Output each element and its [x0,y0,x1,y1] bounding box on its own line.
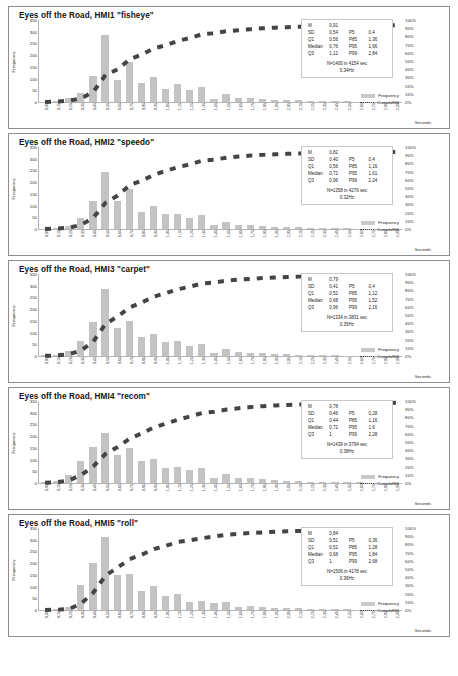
y-axis-tick: 100 [30,203,37,208]
y2-axis-tick: 0% [405,481,411,486]
chart-title: Eyes off the Road, HMI2 "speedo" [19,138,154,147]
x-axis-tick: 0,65 [118,357,122,364]
x-axis-tick: 2,55 [348,484,352,491]
y-axis-tick: 250 [30,295,37,300]
y-axis-tick: 50 [32,215,37,220]
statistics-box: M0,82SD0,40P50,4Q10,56P851,16Median0,72P… [301,146,393,205]
statistics-row: M0,79 [307,277,387,284]
chart-title: Eyes off the Road, HMI3 "carpet" [19,265,150,274]
x-axis-tick: 2,55 [348,357,352,364]
stat-label: Median [307,171,328,178]
stat-label: M [307,23,328,30]
stat-value: 1,16 [367,164,387,171]
x-axis-tick: 0,45 [93,611,97,618]
legend-swatch-line [360,229,374,230]
x-axis-tick: 0,45 [93,357,97,364]
stat-value: 2,28 [367,432,387,439]
legend-label-cumulative: Cumulative [377,354,399,359]
x-axis-tick: 2,45 [335,357,339,364]
y2-axis-tick: 90% [405,280,414,285]
stat-value: 0,78 [328,404,348,411]
x-axis-tick: 2,05 [287,230,291,237]
legend-swatch-line [360,483,374,484]
x-axis-tick: 1,95 [275,484,279,491]
x-axis-tick: 0,15 [57,103,61,110]
statistics-row: Q10,52P851,12 [307,291,387,298]
x-axis-tick: 1,95 [275,103,279,110]
statistics-row: Median0,76P951,96 [307,44,387,51]
stat-label: P99 [348,432,368,439]
stat-label [348,404,368,411]
y-axis-tick: 300 [30,29,37,34]
y2-axis-tick: 80% [405,542,414,547]
y-axis-tick: 50 [32,469,37,474]
stat-label: P95 [348,298,368,305]
x-axis-tick: 2,25 [311,611,315,618]
y-axis-label-wrap: Frequency [14,401,22,484]
statistics-table: M0,79SD0,41P50,4Q10,52P851,12Median0,68P… [307,277,387,312]
x-axis-tick: 0,25 [69,357,73,364]
stat-label: P85 [348,545,368,552]
x-axis-tick: 2,35 [323,357,327,364]
y2-axis-tick: 70% [405,42,414,47]
x-axis-tick: 2,35 [323,230,327,237]
legend-item-frequency: Frequency [360,600,399,607]
x-axis-tick: 1,55 [227,230,231,237]
statistics-row: Q31P992,28 [307,432,387,439]
stat-value: 0,54 [328,30,348,37]
y-axis-tick: 200 [30,561,37,566]
y-axis-tick: 300 [30,410,37,415]
stat-label: Q1 [307,291,328,298]
y-axis-tick: 100 [30,584,37,589]
stat-label: Q1 [307,418,328,425]
stat-label: Q1 [307,545,328,552]
legend-swatch-bar [361,94,375,98]
sample-size-line: N=1400 in 4154 sec [307,61,387,68]
stat-value: 0,36 [367,538,387,545]
y-axis-tick: 350 [30,399,37,404]
legend-item-cumulative: Cumulative [360,99,399,106]
stat-value: 0,4 [367,284,387,291]
stat-label: P99 [348,51,368,58]
stat-label: Q3 [307,178,328,185]
x-axis-tick: 0,95 [154,611,158,618]
statistics-row: Median0,72P951,6 [307,425,387,432]
y2-axis-tick: 30% [405,75,414,80]
y-axis-tick: 50 [32,342,37,347]
y2-axis-tick: 50% [405,186,414,191]
x-axis-tick: 0,75 [130,230,134,237]
chart-panel-1: Eyes off the Road, HMI1 "fisheye"Frequen… [8,6,450,129]
x-axis-tick: 2,05 [287,357,291,364]
y2-axis-tick: 30% [405,583,414,588]
legend-swatch-bar [361,348,375,352]
y2-axis-tick: 40% [405,321,414,326]
stat-value: 0,4 [367,157,387,164]
stat-label: P5 [348,538,368,545]
stat-value: 1,52 [367,298,387,305]
stat-value: 1,96 [367,44,387,51]
y-axis-label-wrap: Frequency [14,528,22,611]
x-axis-tick: 1,15 [178,611,182,618]
statistics-row: SD0,41P50,4 [307,284,387,291]
legend-item-cumulative: Cumulative [360,353,399,360]
x-axis-tick: 1,85 [263,230,267,237]
stat-label: P5 [348,30,368,37]
stat-value: 0,56 [328,164,348,171]
x-axis-tick: 2,55 [348,103,352,110]
stat-value [367,404,387,411]
x-axis-tick: 1,35 [202,611,206,618]
y2-axis-tick: 80% [405,415,414,420]
statistics-row: M0,91 [307,23,387,30]
x-axis-tick: 1,95 [275,357,279,364]
statistics-box: M0,79SD0,41P50,4Q10,52P851,12Median0,68P… [301,273,393,332]
statistics-row: M0,82 [307,150,387,157]
legend-label-frequency: Frequency [378,220,399,225]
x-axis-tick: 1,25 [190,484,194,491]
stat-label: Median [307,44,328,51]
x-axis-tick: 0,95 [154,230,158,237]
stat-value: 0,52 [328,545,348,552]
y2-axis-tick: 30% [405,456,414,461]
y2-axis-tick: 10% [405,218,414,223]
stat-value: 2,68 [367,559,387,566]
y2-axis-tick: 20% [405,464,414,469]
